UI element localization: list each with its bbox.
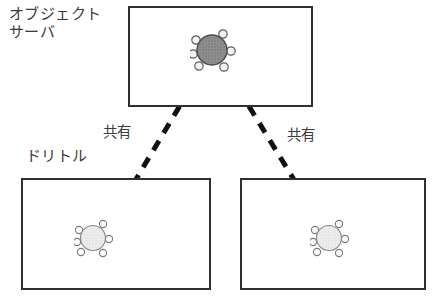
object-node-icon [74, 219, 114, 259]
object-server-label: オブジェクト サーバ [9, 6, 101, 41]
dolittle-client-box-1 [21, 178, 211, 290]
shared-object-node-client-1 [74, 219, 114, 263]
diagram-canvas: オブジェクト サーバ ドリトル 共有 共有 [0, 0, 435, 308]
shared-object-node-client-2 [310, 219, 350, 263]
dolittle-label: ドリトル [26, 148, 88, 166]
share-label-right: 共有 [287, 127, 316, 144]
shared-object-node-server [190, 28, 236, 78]
object-node-icon [310, 219, 350, 259]
object-server-label-line2: サーバ [9, 24, 101, 42]
object-node-icon [190, 28, 236, 74]
object-server-label-line1: オブジェクト [9, 6, 101, 24]
share-label-left: 共有 [103, 124, 132, 141]
